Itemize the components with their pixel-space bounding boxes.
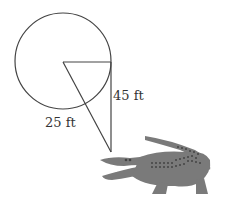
height-label: 45 ft bbox=[113, 88, 144, 103]
hypotenuse-line bbox=[63, 62, 111, 152]
diagram-canvas: 45 ft 25 ft bbox=[0, 0, 225, 204]
radius-label: 25 ft bbox=[45, 115, 76, 130]
circle bbox=[15, 13, 111, 109]
alligator-icon bbox=[100, 136, 210, 194]
